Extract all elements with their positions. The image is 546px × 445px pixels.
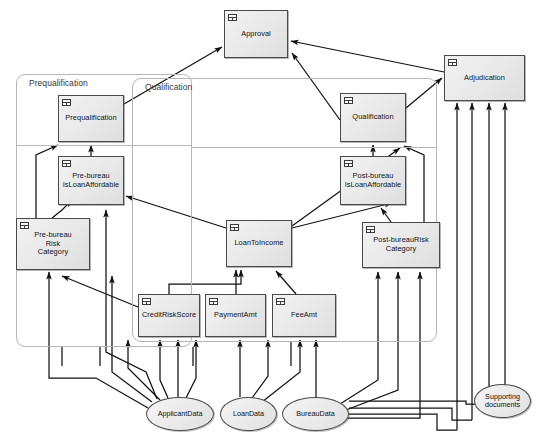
decision-node-label: FeeAmt	[289, 311, 319, 320]
input-data-bureau-data[interactable]: BureauData	[282, 397, 349, 431]
decision-table-icon	[62, 160, 71, 167]
decision-node-pre-bureau-is-loan-affordable[interactable]: Pre-bureau IsLoanAffordable	[58, 156, 124, 205]
group-qualification-label: Qualification	[145, 82, 192, 92]
decision-table-icon	[228, 14, 237, 21]
input-data-label: ApplicantData	[158, 410, 203, 418]
decision-table-icon	[344, 97, 353, 104]
input-data-label: BureauData	[296, 410, 334, 418]
decision-table-icon	[20, 222, 29, 229]
decision-table-icon	[276, 298, 285, 305]
decision-node-qualification[interactable]: Qualification	[340, 93, 406, 142]
decision-node-payment-amt[interactable]: PaymentAmt	[205, 294, 266, 337]
decision-node-label: LoanToIncome	[232, 239, 285, 248]
decision-node-post-bureau-is-loan-affordable[interactable]: Post-bureau IsLoanAffordable	[340, 156, 406, 205]
input-data-loan-data[interactable]: LoanData	[220, 397, 277, 431]
group-prequalification-divider	[16, 145, 192, 146]
decision-node-label: Qualification	[350, 113, 395, 122]
input-data-label: Supporting documents	[485, 393, 520, 409]
decision-node-credit-risk-score[interactable]: CreditRiskScore	[138, 294, 200, 337]
decision-node-label: Post-bureauRisk Category	[371, 236, 430, 253]
decision-table-icon	[230, 224, 239, 231]
decision-node-label: PaymentAmt	[212, 311, 259, 320]
decision-table-icon	[448, 59, 457, 66]
decision-node-fee-amt[interactable]: FeeAmt	[272, 294, 336, 337]
decision-table-icon	[62, 99, 71, 106]
decision-node-label: CreditRiskScore	[140, 311, 198, 320]
decision-node-approval[interactable]: Approval	[224, 10, 288, 58]
group-prequalification-label: Prequalification	[29, 78, 88, 88]
decision-table-icon	[366, 226, 375, 233]
decision-node-label: Pre-bureau IsLoanAffordable	[61, 172, 122, 189]
decision-node-pre-bureau-risk-category[interactable]: Pre-bureau Risk Category	[16, 218, 90, 270]
input-data-applicant-data[interactable]: ApplicantData	[146, 397, 214, 431]
decision-node-label: Approval	[239, 30, 273, 39]
decision-table-icon	[209, 298, 218, 305]
input-data-label: LoanData	[233, 410, 264, 418]
group-qualification-divider	[192, 147, 437, 148]
decision-table-icon	[142, 298, 151, 305]
decision-node-label: Adjudication	[462, 74, 507, 83]
decision-node-adjudication[interactable]: Adjudication	[444, 55, 525, 101]
decision-node-label: Post-bureau IsLoanAffordable	[343, 172, 404, 189]
dmn-diagram-canvas: Prequalification Qualification Approval …	[0, 0, 546, 445]
decision-node-prequalification[interactable]: Prequalification	[58, 95, 124, 142]
decision-node-label: Pre-bureau Risk Category	[32, 231, 73, 257]
decision-node-post-bureau-risk-category[interactable]: Post-bureauRisk Category	[362, 222, 440, 268]
input-data-supporting-documents[interactable]: Supporting documents	[474, 384, 531, 418]
decision-table-icon	[344, 160, 353, 167]
decision-node-label: Prequalification	[63, 114, 118, 123]
decision-node-loan-to-income[interactable]: LoanToIncome	[226, 220, 292, 267]
